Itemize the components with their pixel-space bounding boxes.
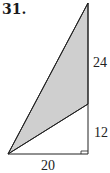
triangle-figure: 24 12 20 — [0, 0, 110, 173]
label-24: 24 — [93, 55, 107, 70]
label-20: 20 — [41, 158, 55, 173]
label-12: 12 — [94, 125, 108, 140]
